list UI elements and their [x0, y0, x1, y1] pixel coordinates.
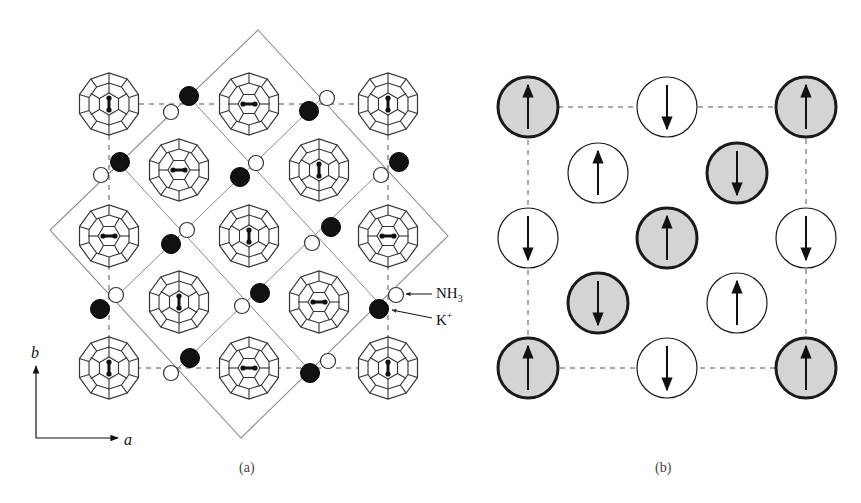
nh3-molecule — [109, 288, 124, 303]
k-ion — [370, 300, 389, 319]
shaded-spin-site — [498, 338, 558, 398]
nh3-molecule — [305, 236, 320, 251]
k-ion — [390, 153, 409, 172]
shaded-spin-site — [776, 338, 836, 398]
c60-fullerene — [80, 73, 139, 135]
shaded-spin-site — [568, 273, 628, 333]
c60-fullerene — [150, 271, 209, 333]
c60-fullerene — [359, 337, 418, 399]
open-spin-site — [498, 208, 558, 268]
cell-grid-line — [114, 99, 322, 300]
c60-fullerene — [359, 205, 418, 267]
axis-b-label: b — [31, 344, 39, 362]
nh3-molecule — [235, 299, 250, 314]
c60-fullerene — [80, 205, 139, 267]
axis-a-label: a — [124, 431, 132, 449]
nh3-molecule — [94, 168, 109, 183]
c60-fullerene — [220, 205, 279, 267]
c60-fullerene — [150, 139, 209, 201]
nh3-molecule — [374, 168, 389, 183]
open-spin-site — [637, 77, 697, 137]
k-ion — [300, 102, 319, 121]
nh3-molecule — [164, 366, 179, 381]
nh3-molecule — [321, 354, 336, 369]
k-ion — [111, 153, 130, 172]
nh3-molecule — [249, 156, 264, 171]
c60-fullerene — [80, 337, 139, 399]
k-ion — [301, 364, 320, 383]
nh3-molecule — [180, 223, 195, 238]
c60-fullerene — [220, 73, 279, 135]
k-ion — [251, 284, 270, 303]
shaded-spin-site — [707, 143, 767, 203]
c60-fullerene — [220, 337, 279, 399]
panel-b-spin-order — [498, 77, 836, 398]
caption-a: (a) — [239, 460, 255, 476]
open-spin-site — [776, 208, 836, 268]
c60-fullerene — [290, 271, 349, 333]
c60-fullerene — [359, 73, 418, 135]
k-ion-label: K+ — [436, 310, 452, 329]
open-spin-site — [637, 338, 697, 398]
shaded-spin-site — [776, 77, 836, 137]
k-ion — [181, 349, 200, 368]
k-ion — [162, 235, 181, 254]
caption-b: (b) — [655, 460, 671, 476]
nh3-molecule — [389, 288, 404, 303]
open-spin-site — [568, 143, 628, 203]
shaded-spin-site — [498, 77, 558, 137]
figure-canvas — [0, 0, 861, 503]
nh3-label: NH3 — [436, 285, 463, 304]
panel-a-crystal-structure — [36, 30, 448, 438]
open-spin-site — [707, 273, 767, 333]
nh3-molecule — [164, 105, 179, 120]
k-ion — [180, 87, 199, 106]
c60-fullerene — [290, 139, 349, 201]
nh3-molecule — [320, 91, 335, 106]
k-ion — [91, 300, 110, 319]
k-ion — [322, 218, 341, 237]
k-pointer-arrow — [392, 310, 432, 318]
shaded-spin-site — [637, 208, 697, 268]
k-ion — [231, 168, 250, 187]
